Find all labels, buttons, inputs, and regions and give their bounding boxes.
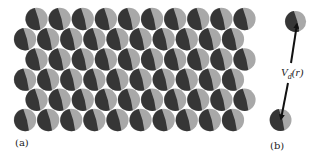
janus-particle [210,89,232,111]
janus-particle [72,8,94,30]
janus-particle [60,28,82,50]
panel-a-label: (a) [15,137,29,148]
janus-particle [199,68,221,90]
janus-particle [222,109,244,131]
janus-particle [72,48,94,70]
janus-particle [152,68,174,90]
janus-particle [83,109,105,131]
janus-particle [25,48,47,70]
janus-particle [129,109,151,131]
janus-particle [187,48,209,70]
janus-particle [25,89,47,111]
janus-particle [37,68,59,90]
janus-particle [14,28,36,50]
janus-particle [141,8,163,30]
potential-argument: (r) [292,66,304,79]
janus-particle-figure: (a) Vd(r) (b) [0,0,318,157]
janus-particle [48,8,70,30]
janus-particle [210,48,232,70]
janus-particle [14,68,36,90]
janus-particle [95,48,117,70]
janus-particle [60,68,82,90]
janus-particle [129,28,151,50]
janus-particle [118,48,140,70]
janus-particle [106,109,128,131]
janus-particle [72,89,94,111]
janus-particle [106,28,128,50]
potential-label: Vd(r) [281,66,304,81]
janus-particle [118,8,140,30]
panel-b-label: (b) [270,140,284,151]
janus-particle [106,68,128,90]
janus-particle-lattice [14,8,256,131]
janus-particle [95,8,117,30]
janus-particle [141,89,163,111]
janus-particle [141,48,163,70]
janus-particle [152,28,174,50]
janus-particle [233,89,255,111]
janus-particle [83,28,105,50]
janus-particle [176,28,198,50]
janus-particle [210,8,232,30]
janus-particle [37,109,59,131]
janus-particle [37,28,59,50]
janus-particle [199,109,221,131]
janus-particle [14,109,36,131]
janus-particle [60,109,82,131]
janus-particle [176,68,198,90]
janus-particle [187,8,209,30]
janus-particle [199,28,221,50]
janus-particle [233,48,255,70]
janus-particle [187,89,209,111]
janus-particle [233,8,255,30]
janus-particle [48,48,70,70]
janus-particle [48,89,70,111]
janus-particle [129,68,151,90]
janus-particle [25,8,47,30]
janus-particle [222,28,244,50]
janus-particle [164,89,186,111]
janus-particle [176,109,198,131]
janus-particle [164,8,186,30]
janus-particle [152,109,174,131]
janus-particle [164,48,186,70]
janus-particle [118,89,140,111]
janus-particle [95,89,117,111]
janus-particle [83,68,105,90]
janus-particle [222,68,244,90]
bottom-particle [270,109,292,131]
